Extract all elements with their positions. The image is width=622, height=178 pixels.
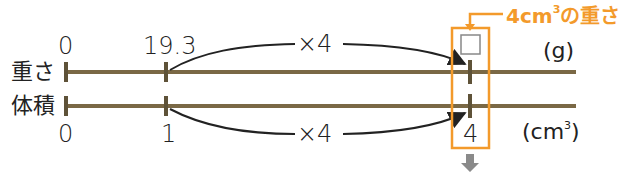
weight-tick-label-19-3: 19.3 (143, 34, 196, 58)
bottom-multiplier-arrow-right (343, 113, 465, 134)
top-multiplier-arrow-right (343, 44, 465, 64)
volume-unit: (cm3) (522, 120, 580, 143)
volume-unit-close: ) (571, 119, 580, 144)
callout-label: 4cm3の重さ (506, 4, 620, 26)
callout-leader (470, 14, 503, 26)
down-arrow-icon (461, 154, 479, 172)
weight-tick-label-0: 0 (58, 34, 73, 58)
answer-box (461, 35, 480, 54)
volume-row-label: 体積 (11, 95, 55, 117)
volume-unit-base: (cm (522, 119, 564, 144)
callout-prefix: 4cm (506, 4, 553, 28)
weight-unit: (g) (543, 40, 574, 62)
volume-tick-label-0: 0 (58, 122, 73, 146)
volume-tick-label-4: 4 (463, 122, 478, 146)
bottom-multiplier-label: ×4 (297, 122, 332, 146)
callout-suffix: の重さ (560, 4, 620, 28)
weight-row-label: 重さ (11, 61, 55, 83)
bottom-multiplier-arrow-left (170, 109, 295, 134)
volume-tick-label-1: 1 (161, 122, 176, 146)
top-multiplier-label: ×4 (297, 32, 332, 56)
